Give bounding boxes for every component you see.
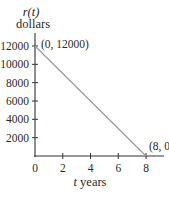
y-tick-label: 2000 [6,132,29,144]
annotation-point-end: (8, 0) [149,140,169,153]
x-tick-label: 6 [115,162,121,174]
y-tick-label: 4000 [6,113,29,125]
x-tick-label: 4 [88,162,94,174]
series [35,46,146,156]
x-tick-label: 0 [32,162,38,174]
y-tick-label: 8000 [6,77,29,89]
y-ticks: 20004000600080001000012000 [0,40,38,144]
x-axis-title: t years [74,175,107,189]
y-tick-label: 6000 [6,95,29,107]
chart: r(t) dollars 20004000600080001000012000 … [0,0,169,198]
x-tick-label: 8 [143,162,149,174]
annotation-point-start: (0, 12000) [41,38,89,51]
axes [34,33,164,157]
series-line [35,46,146,156]
y-tick-label: 12000 [0,40,29,52]
x-tick-label: 2 [60,162,66,174]
y-tick-label: 10000 [0,58,29,70]
y-axis-title-line2: dollars [16,17,50,31]
annotations: (0, 12000)(8, 0) [41,38,169,153]
